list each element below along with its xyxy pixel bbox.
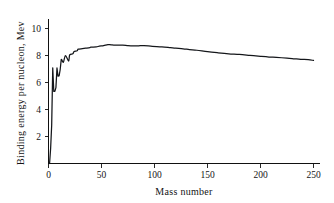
y-tick-label: 6 [36,78,41,88]
x-tick-label: 250 [306,170,321,180]
x-tick-label: 100 [147,170,162,180]
axis-lines [49,19,321,164]
y-tick-label: 8 [36,51,41,61]
y-axis-title: Binding energy per nucleon, Mev [15,21,26,165]
x-tick-label: 50 [97,170,107,180]
x-axis-title: Mass number [155,186,213,197]
y-tick-label: 2 [36,132,41,142]
y-tick-label: 4 [36,105,41,115]
x-tick-label: 150 [200,170,215,180]
y-tick-label: 10 [32,24,42,34]
x-tick-label: 200 [253,170,268,180]
x-axis-ticks [49,164,314,168]
y-axis-ticks [45,28,49,136]
chart-figure: 10 8 6 4 2 0 50 100 150 200 250 Mass num… [0,0,334,203]
x-tick-label: 0 [46,170,51,180]
binding-energy-curve-plot: 10 8 6 4 2 0 50 100 150 200 250 Mass num… [0,0,334,203]
binding-energy-curve [50,45,314,164]
